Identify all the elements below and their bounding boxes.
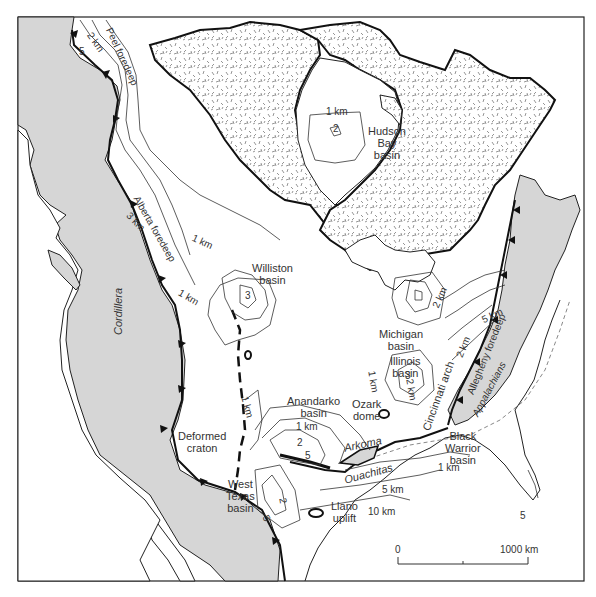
label-deformed-craton: Deformed craton [178,430,226,454]
basin-map [0,0,596,597]
scale-bar-end-label: 1000 km [500,544,538,555]
label-anadarko-basin: Anandarko basin [287,395,340,419]
label-west-texas-basin: West Texas basin [226,478,255,514]
contour-anadarko-2: 2 [297,437,303,449]
scale-bar-start-label: 0 [395,544,401,555]
contour-illinois-3: 3 [405,370,411,382]
contour-gulf-5km: 5 km [382,484,404,496]
contour-hudson-1km: 1 km [326,106,348,118]
contour-peel-5: 5 [79,46,85,58]
contour-gulf-1km: 1 km [438,462,460,474]
contour-gulf-10km: 10 km [368,506,395,518]
label-llano-uplift: Llano uplift [331,500,358,524]
label-ozark-dome: Ozark dome [352,398,381,422]
contour-anadarko-1km: 1 km [296,421,318,433]
label-michigan-basin: Michigan basin [379,328,423,352]
label-williston-basin: Williston basin [252,262,293,286]
contour-anadarko-5: 5 [305,450,311,462]
label-cordillera: Cordillera [112,288,124,335]
label-black-warrior-basin: Black Warrior basin [445,430,481,466]
contour-hudson-2: 2 [333,123,339,135]
contour-williston-3: 3 [245,290,251,302]
contour-florida-5: 5 [520,510,526,522]
label-hudson-bay-basin: Hudson Bay basin [368,125,406,161]
